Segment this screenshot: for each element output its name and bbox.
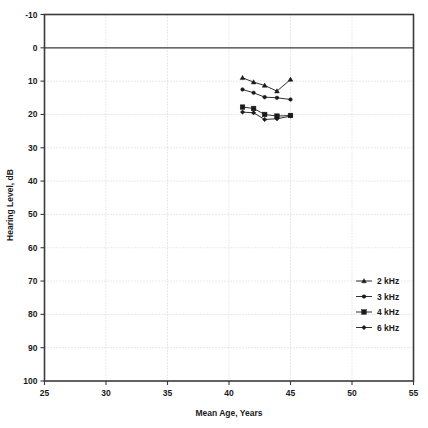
- x-tick-label: 30: [101, 388, 111, 398]
- y-tick-label: 80: [28, 309, 38, 319]
- legend-label: 2 kHz: [377, 276, 399, 286]
- chart-container: -100102030405060708090100 25303540455055…: [0, 0, 428, 428]
- data-point-marker-circle: [275, 96, 279, 100]
- y-tick-label: 100: [23, 376, 37, 386]
- legend-label: 6 kHz: [377, 323, 399, 333]
- data-point-marker-square: [251, 106, 256, 111]
- x-tick-label: 40: [224, 388, 234, 398]
- y-tick-label: 30: [28, 143, 38, 153]
- y-tick-label: 0: [33, 43, 38, 53]
- data-point-marker-circle: [241, 88, 245, 92]
- chart-background: [0, 0, 428, 428]
- legend-label: 4 kHz: [377, 307, 399, 317]
- y-tick-label: 40: [28, 176, 38, 186]
- y-tick-label: 20: [28, 109, 38, 119]
- data-point-marker-square: [262, 112, 267, 117]
- y-tick-label: 60: [28, 243, 38, 253]
- x-tick-label: 45: [286, 388, 296, 398]
- data-point-marker-circle: [362, 295, 366, 299]
- y-tick-label: 10: [28, 76, 38, 86]
- y-axis-label: Hearing Level, dB: [5, 169, 15, 241]
- x-tick-label: 50: [347, 388, 357, 398]
- data-point-marker-circle: [263, 95, 267, 99]
- data-point-marker-circle: [289, 98, 293, 102]
- y-tick-label: 50: [28, 209, 38, 219]
- x-tick-label: 35: [163, 388, 173, 398]
- legend-label: 3 kHz: [377, 292, 399, 302]
- data-point-marker-square: [240, 105, 245, 110]
- y-tick-label: 90: [28, 343, 38, 353]
- y-tick-label: -10: [25, 10, 38, 20]
- x-tick-label: 25: [40, 388, 50, 398]
- data-point-marker-square: [362, 310, 367, 315]
- x-tick-label: 55: [409, 388, 419, 398]
- y-tick-label: 70: [28, 276, 38, 286]
- hearing-level-line-chart: -100102030405060708090100 25303540455055…: [0, 0, 428, 428]
- data-point-marker-circle: [252, 91, 256, 95]
- x-axis-label: Mean Age, Years: [195, 408, 262, 418]
